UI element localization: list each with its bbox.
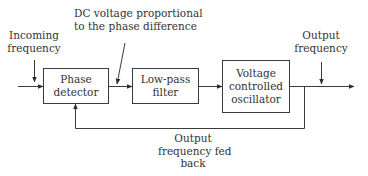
pll-diagram: Phase detector Low-pass filter Voltage c…	[0, 0, 368, 176]
low-pass-filter-label: Low-pass filter	[133, 69, 198, 103]
phase-detector-label: Phase detector	[44, 69, 108, 103]
vco-label: Voltage controlled oscillator	[223, 61, 289, 112]
feedback-label: Output frequency fed back	[158, 132, 228, 170]
output-frequency-label: Output frequency	[290, 29, 352, 54]
incoming-frequency-label: Incoming frequency	[4, 29, 64, 54]
dc-voltage-pointer	[117, 43, 125, 84]
dc-voltage-label: DC voltage proportional to the phase dif…	[74, 7, 184, 32]
